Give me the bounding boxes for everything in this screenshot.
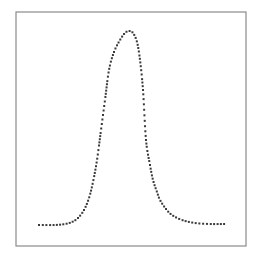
curve-dot — [106, 86, 108, 88]
curve-dot — [161, 203, 163, 205]
curve-dot — [141, 73, 143, 75]
chart-plot — [0, 0, 262, 262]
curve-dot — [188, 221, 190, 223]
curve-dot — [89, 193, 91, 195]
curve-dot — [97, 154, 99, 156]
curve-dot — [49, 224, 51, 226]
curve-dot — [195, 222, 197, 224]
curve-dot — [198, 222, 200, 224]
curve-dot — [140, 65, 142, 67]
curve-dot — [121, 36, 123, 38]
curve-dot — [97, 149, 99, 151]
curve-dot — [145, 139, 147, 141]
curve-dot — [142, 93, 144, 95]
curve-dot — [223, 223, 225, 225]
curve-dot — [150, 168, 152, 170]
curve-dot — [59, 224, 61, 226]
curve-dot — [53, 224, 55, 226]
curve-dot — [217, 223, 219, 225]
curve-dot — [98, 145, 100, 147]
curve-dot — [69, 222, 71, 224]
curve-dot — [91, 186, 93, 188]
curve-dot — [113, 51, 115, 53]
curve-dot — [170, 213, 172, 215]
curve-dot — [144, 130, 146, 132]
curve-dot — [137, 47, 139, 49]
curve-dot — [85, 206, 87, 208]
curve-dot — [155, 187, 157, 189]
curve-dot — [137, 44, 139, 46]
curve-dot — [144, 120, 146, 122]
curve-dot — [79, 215, 81, 217]
curve-dot — [110, 61, 112, 63]
curve-dot — [92, 183, 94, 185]
curve-dot — [129, 30, 131, 32]
curve-dot — [118, 42, 120, 44]
curve-dot — [143, 114, 145, 116]
curve-dot — [150, 171, 152, 173]
curve-dot — [86, 203, 88, 205]
curve-dot — [159, 200, 161, 202]
curve-dot — [104, 101, 106, 103]
curve-dot — [135, 37, 137, 39]
curve-dot — [210, 223, 212, 225]
curve-dot — [95, 165, 97, 167]
curve-dot — [114, 47, 116, 49]
curve-dot — [220, 223, 222, 225]
curve-dot — [141, 82, 143, 84]
plot-frame — [16, 12, 246, 246]
curve-dot — [96, 158, 98, 160]
curve-dot — [103, 105, 105, 107]
curve-dot — [102, 114, 104, 116]
curve-dot — [72, 221, 74, 223]
curve-dot — [107, 76, 109, 78]
curve-dot — [146, 150, 148, 152]
curve-dot — [167, 211, 169, 213]
curve-dot — [144, 125, 146, 127]
curve-dot — [81, 212, 83, 214]
curve-dot — [38, 224, 40, 226]
dotted-curve — [38, 30, 225, 226]
curve-dot — [83, 209, 85, 211]
curve-dot — [94, 172, 96, 174]
curve-dot — [77, 217, 79, 219]
curve-dot — [142, 89, 144, 91]
curve-dot — [99, 138, 101, 140]
curve-dot — [105, 93, 107, 95]
curve-dot — [108, 68, 110, 70]
curve-dot — [92, 179, 94, 181]
curve-dot — [143, 103, 145, 105]
curve-dot — [156, 190, 158, 192]
curve-dot — [56, 224, 58, 226]
curve-dot — [105, 90, 107, 92]
curve-dot — [138, 51, 140, 53]
curve-dot — [108, 72, 110, 74]
curve-dot — [149, 164, 151, 166]
curve-dot — [62, 223, 64, 225]
curve-dot — [148, 160, 150, 162]
curve-dot — [191, 222, 193, 224]
curve-dot — [142, 85, 144, 87]
curve-dot — [206, 223, 208, 225]
curve-dot — [152, 178, 154, 180]
curve-dot — [109, 65, 111, 67]
curve-dot — [163, 205, 165, 207]
curve-dot — [45, 224, 47, 226]
curve-dot — [147, 154, 149, 156]
curve-dot — [139, 61, 141, 63]
curve-dot — [153, 181, 155, 183]
curve-dot — [125, 31, 127, 33]
curve-dot — [116, 44, 118, 46]
curve-dot — [87, 200, 89, 202]
curve-dot — [178, 218, 180, 220]
curve-dot — [175, 216, 177, 218]
curve-dot — [119, 39, 121, 41]
curve-dot — [131, 31, 133, 33]
curve-dot — [94, 169, 96, 171]
curve-dot — [112, 54, 114, 56]
curve-dot — [101, 123, 103, 125]
curve-dot — [106, 80, 108, 82]
curve-dot — [140, 69, 142, 71]
curve-dot — [158, 197, 160, 199]
curve-dot — [182, 219, 184, 221]
